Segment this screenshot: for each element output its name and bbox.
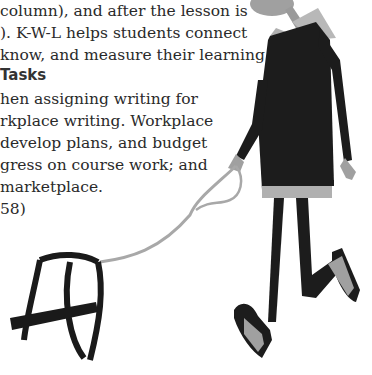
skirt-hem <box>262 184 332 198</box>
leash-icon <box>100 166 236 262</box>
left-leg <box>268 198 284 322</box>
walking-person-illustration <box>0 0 372 375</box>
right-leg <box>296 198 342 298</box>
